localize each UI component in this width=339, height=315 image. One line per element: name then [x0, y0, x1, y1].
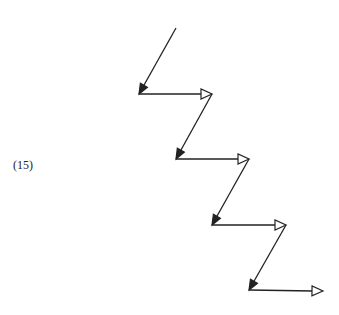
diagonal-arrow-4	[249, 225, 286, 290]
filled-arrowhead-icon	[176, 148, 184, 159]
filled-arrowhead-icon	[249, 279, 257, 290]
filled-arrowhead-icon	[139, 83, 147, 94]
filled-arrowhead-icon	[212, 214, 220, 225]
horizontal-arrow-4	[249, 290, 313, 291]
diagonal-arrow-1	[139, 28, 176, 94]
diagonal-arrow-2	[176, 94, 212, 159]
diagonal-arrow-3	[212, 159, 249, 225]
open-arrowhead-icon	[312, 286, 323, 296]
zigzag-arrow-diagram	[0, 0, 339, 315]
